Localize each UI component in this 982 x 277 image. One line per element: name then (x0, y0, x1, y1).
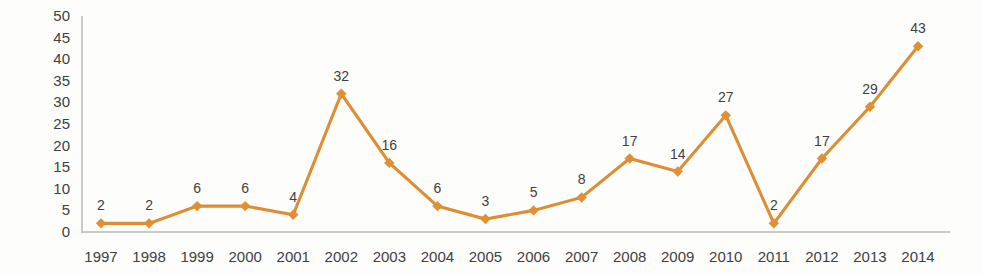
chart-axes (82, 16, 950, 232)
x-axis-tick-label: 2012 (805, 248, 838, 265)
y-axis-tick-label: 0 (62, 223, 70, 240)
x-axis-tick-label: 2013 (853, 248, 886, 265)
data-point-label: 5 (530, 184, 538, 200)
x-axis-tick-label: 2011 (758, 248, 790, 265)
data-point-marker[interactable] (192, 201, 202, 211)
x-axis-tick-label: 2009 (661, 248, 694, 265)
x-axis-tick-label: 2004 (421, 248, 454, 265)
data-point-label: 2 (145, 197, 153, 213)
y-axis-tick-label: 45 (53, 29, 70, 46)
data-point-label: 6 (241, 180, 249, 196)
data-point-label: 17 (622, 133, 638, 149)
y-axis-tick-label: 10 (53, 180, 70, 197)
data-point-label: 32 (334, 68, 350, 84)
data-point-label: 2 (97, 197, 105, 213)
x-axis-tick-label: 1999 (180, 248, 213, 265)
data-point-label: 27 (718, 89, 734, 105)
y-axis-tick-label: 5 (62, 201, 70, 218)
data-point-label: 16 (382, 137, 398, 153)
line-chart: 0510152025303540455019971998199920002001… (0, 0, 982, 277)
x-axis-tick-label: 2001 (277, 248, 310, 265)
x-axis-tick-label: 1997 (84, 248, 117, 265)
chart-canvas: 0510152025303540455019971998199920002001… (0, 0, 982, 277)
data-point-label: 8 (578, 171, 586, 187)
data-point-label: 2 (770, 197, 778, 213)
data-point-label: 14 (670, 146, 686, 162)
x-axis-tick-label: 1998 (132, 248, 165, 265)
data-point-label: 6 (434, 180, 442, 196)
y-axis-tick-label: 30 (53, 93, 70, 110)
data-point-marker[interactable] (480, 214, 490, 224)
data-point-label: 4 (289, 189, 297, 205)
data-point-marker[interactable] (96, 218, 106, 228)
y-axis-tick-label: 20 (53, 137, 70, 154)
series-line (101, 46, 918, 223)
y-axis-tick-label: 25 (53, 115, 70, 132)
x-axis-tick-label: 2000 (228, 248, 261, 265)
x-axis-tick-label: 2005 (469, 248, 502, 265)
x-axis-tick-label: 2006 (517, 248, 550, 265)
y-axis-tick-label: 40 (53, 50, 70, 67)
x-axis-tick-label: 2007 (565, 248, 598, 265)
x-axis-tick-label: 2003 (373, 248, 406, 265)
data-point-marker[interactable] (528, 205, 538, 215)
data-point-marker[interactable] (144, 218, 154, 228)
data-point-label: 17 (814, 133, 830, 149)
y-axis-tick-label: 35 (53, 72, 70, 89)
data-point-marker[interactable] (288, 210, 298, 220)
x-axis-tick-label: 2008 (613, 248, 646, 265)
y-axis-tick-label: 50 (53, 7, 70, 24)
data-point-label: 6 (193, 180, 201, 196)
data-point-marker[interactable] (240, 201, 250, 211)
x-axis-tick-label: 2002 (325, 248, 358, 265)
x-axis-tick-label: 2010 (709, 248, 742, 265)
data-point-label: 3 (482, 193, 490, 209)
data-point-label: 29 (862, 81, 878, 97)
y-axis-tick-label: 15 (53, 158, 70, 175)
data-point-label: 43 (910, 20, 926, 36)
x-axis-tick-label: 2014 (901, 248, 934, 265)
